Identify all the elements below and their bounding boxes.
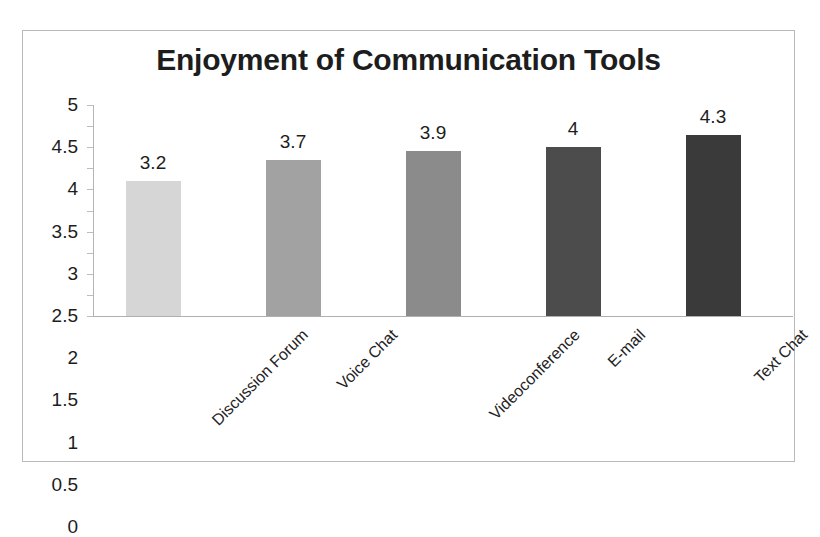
- bar: 4.3Text Chat: [686, 135, 741, 316]
- x-axis-line: [93, 316, 793, 317]
- category-label: E-mail: [604, 326, 649, 371]
- y-tick-label: 1: [67, 432, 78, 454]
- y-tick-label: 0.5: [52, 474, 78, 496]
- y-tick-label: 1.5: [52, 389, 78, 411]
- y-tick-mark: 2.5: [87, 211, 93, 212]
- y-tick-mark: 3.5: [87, 168, 93, 169]
- y-tick-mark: 4.5: [87, 126, 93, 127]
- bar-value-label: 4.3: [700, 106, 726, 128]
- bar-value-label: 3.2: [140, 152, 166, 174]
- bar-value-label: 3.7: [280, 131, 306, 153]
- bar-value-label: 4: [568, 118, 579, 140]
- plot-area: 54.543.532.521.510.50 3.2Discussion Foru…: [93, 105, 793, 316]
- category-label: Voice Chat: [334, 326, 401, 393]
- bar: 4E-mail: [546, 147, 601, 316]
- y-tick-label: 4.5: [52, 136, 78, 158]
- y-tick-label: 3: [67, 263, 78, 285]
- y-tick-label: 2.5: [52, 305, 78, 327]
- y-tick-mark: 5: [87, 105, 93, 106]
- y-axis-line: [93, 105, 94, 316]
- y-tick-label: 2: [67, 347, 78, 369]
- bar: 3.2Discussion Forum: [126, 181, 181, 316]
- bar: 3.9Videoconference: [406, 151, 461, 316]
- y-tick-label: 4: [67, 178, 78, 200]
- bar-value-label: 3.9: [420, 122, 446, 144]
- chart-frame: Enjoyment of Communication Tools 54.543.…: [22, 30, 795, 462]
- y-tick-mark: 4: [87, 147, 93, 148]
- category-label: Text Chat: [751, 326, 812, 387]
- category-label: Videoconference: [486, 326, 583, 423]
- y-tick-label: 5: [67, 94, 78, 116]
- y-tick-mark: 2: [87, 232, 93, 233]
- y-tick-mark: 0.5: [87, 295, 93, 296]
- y-tick-label: 0: [67, 516, 78, 537]
- category-label: Discussion Forum: [208, 326, 311, 429]
- y-tick-mark: 1: [87, 274, 93, 275]
- chart-title: Enjoyment of Communication Tools: [23, 43, 794, 77]
- y-tick-mark: 0: [87, 316, 93, 317]
- y-tick-label: 3.5: [52, 221, 78, 243]
- scan-text-fragment: [0, 0, 420, 6]
- y-tick-mark: 3: [87, 189, 93, 190]
- y-tick-mark: 1.5: [87, 253, 93, 254]
- bar: 3.7Voice Chat: [266, 160, 321, 316]
